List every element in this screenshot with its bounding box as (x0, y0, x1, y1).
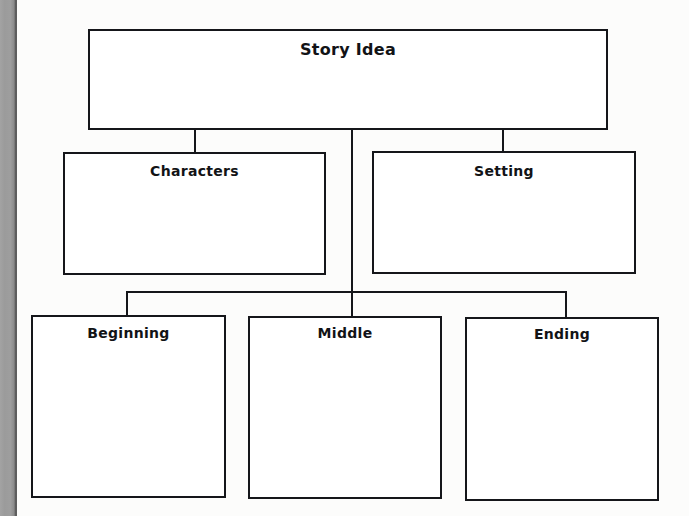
node-story-idea-label: Story Idea (90, 40, 606, 59)
node-setting[interactable]: Setting (372, 151, 636, 274)
connector-bottom-horizontal-bar (126, 291, 567, 293)
page-binding-shadow (0, 0, 15, 516)
node-beginning[interactable]: Beginning (31, 315, 226, 498)
connector-bar-to-beginning (126, 291, 128, 316)
node-story-idea[interactable]: Story Idea (88, 29, 608, 130)
node-ending[interactable]: Ending (465, 317, 659, 501)
node-ending-label: Ending (467, 326, 657, 342)
connector-bar-to-ending (565, 291, 567, 318)
node-middle[interactable]: Middle (248, 316, 442, 499)
connector-story-idea-to-characters (194, 130, 196, 153)
connector-story-idea-to-middle (351, 130, 353, 316)
node-middle-label: Middle (250, 325, 440, 341)
connector-story-idea-to-setting (502, 130, 504, 152)
node-characters-label: Characters (65, 163, 324, 179)
node-characters[interactable]: Characters (63, 152, 326, 275)
worksheet-page: Story Idea Characters Setting Beginning … (0, 0, 689, 516)
node-setting-label: Setting (374, 163, 634, 179)
node-beginning-label: Beginning (33, 325, 224, 341)
